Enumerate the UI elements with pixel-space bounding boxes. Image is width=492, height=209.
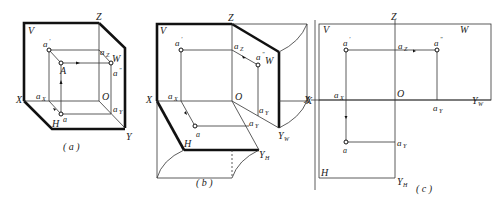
svg-text:W: W — [112, 53, 122, 64]
point-a-prime — [47, 48, 51, 52]
svg-text:X: X — [145, 94, 153, 105]
caption-a: ( a ) — [63, 141, 80, 153]
svg-text:O: O — [397, 88, 404, 99]
svg-text:Y: Y — [255, 123, 259, 129]
svg-text:W: W — [284, 136, 290, 142]
svg-text:a: a — [434, 38, 439, 48]
svg-text:H: H — [51, 118, 60, 129]
svg-text:": " — [440, 36, 443, 42]
svg-text:V: V — [160, 25, 168, 36]
svg-text:a: a — [397, 138, 402, 148]
svg-text:a: a — [168, 91, 173, 101]
svg-text:": " — [119, 67, 122, 73]
svg-text:Z: Z — [404, 46, 408, 52]
svg-text:X: X — [339, 95, 344, 101]
svg-text:Z: Z — [228, 12, 234, 23]
svg-text:a: a — [113, 104, 118, 114]
svg-text:a: a — [256, 52, 261, 62]
point-a-dprime — [435, 48, 439, 52]
svg-text:Z: Z — [391, 11, 397, 22]
svg-text:': ' — [181, 36, 183, 42]
svg-text:X: X — [15, 94, 23, 105]
panel-b: Z V a' aZ a" W X aX O aY aY a H YW YH X … — [145, 12, 313, 189]
panel-a: Z V a' aZ W A a" X aX O aY H a Y ( a ) — [15, 11, 133, 153]
svg-text:H: H — [320, 167, 329, 178]
svg-text:Y: Y — [119, 109, 123, 115]
point-a — [344, 140, 348, 144]
point-a-dprime — [256, 63, 260, 67]
svg-text:a: a — [43, 39, 48, 49]
svg-text:Z: Z — [240, 46, 244, 52]
point-a-prime — [344, 48, 348, 52]
svg-text:a: a — [334, 90, 339, 100]
svg-text:H: H — [183, 138, 192, 149]
svg-text:a: a — [113, 68, 118, 78]
caption-b: ( b ) — [196, 177, 213, 189]
svg-text:Y: Y — [265, 110, 269, 116]
svg-text:a: a — [249, 118, 254, 128]
svg-text:W: W — [265, 55, 275, 66]
svg-text:W: W — [460, 24, 470, 35]
svg-text:H: H — [264, 155, 270, 161]
svg-text:Y: Y — [439, 108, 443, 114]
svg-text:X: X — [41, 96, 46, 102]
svg-text:O: O — [235, 91, 242, 102]
svg-text:a: a — [234, 41, 239, 51]
svg-text:V: V — [28, 25, 36, 36]
svg-text:a: a — [36, 91, 41, 101]
svg-text:': ' — [49, 38, 51, 44]
svg-text:Y: Y — [403, 143, 407, 149]
panel-c: Z V W a' aZ a" X aX O aY YW aY a H YH ( … — [303, 11, 491, 195]
svg-text:a: a — [343, 146, 347, 155]
svg-text:Z: Z — [106, 52, 110, 58]
svg-text:a: a — [175, 38, 180, 48]
point-a — [193, 124, 197, 128]
svg-text:': ' — [349, 36, 351, 42]
v-plane-edge — [157, 24, 232, 101]
svg-text:a: a — [100, 47, 105, 57]
h-plane-edge — [24, 101, 125, 129]
svg-text:a: a — [343, 38, 348, 48]
svg-text:a: a — [196, 130, 200, 139]
svg-text:X: X — [173, 96, 178, 102]
svg-text:Y: Y — [126, 131, 133, 142]
svg-text:a: a — [433, 103, 438, 113]
svg-text:H: H — [402, 182, 408, 188]
svg-text:O: O — [102, 91, 109, 102]
svg-text:V: V — [323, 24, 331, 35]
svg-text:Z: Z — [96, 11, 102, 22]
svg-text:X: X — [303, 94, 311, 105]
svg-text:A: A — [59, 65, 67, 76]
svg-text:a: a — [398, 41, 403, 51]
svg-text:W: W — [478, 101, 484, 107]
point-a-prime — [179, 48, 183, 52]
caption-c: ( c ) — [416, 183, 433, 195]
svg-text:a: a — [63, 115, 67, 124]
svg-text:a: a — [259, 105, 264, 115]
